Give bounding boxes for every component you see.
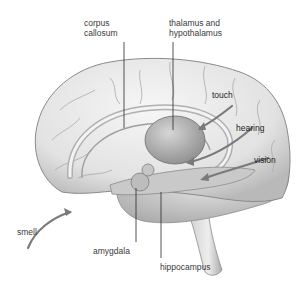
label-corpus-callosum: corpus callosum bbox=[84, 18, 118, 38]
label-vision: vision bbox=[254, 155, 276, 165]
label-hearing: hearing bbox=[236, 123, 264, 133]
label-amygdala: amygdala bbox=[93, 246, 130, 256]
label-touch: touch bbox=[212, 90, 233, 100]
thalamus bbox=[145, 116, 205, 164]
brain-diagram bbox=[0, 0, 306, 282]
label-hippocampus: hippocampus bbox=[160, 262, 211, 272]
label-thalamus-hypothalamus: thalamus and hypothalamus bbox=[169, 18, 222, 38]
label-smell: smell bbox=[17, 227, 37, 237]
